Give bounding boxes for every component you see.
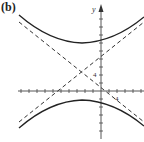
y-axis xyxy=(99,4,104,139)
y-axis-arrow-icon xyxy=(99,4,104,12)
graph-canvas: y 4 4 xyxy=(0,0,144,142)
x-axis xyxy=(18,89,144,93)
hyperbola-lower-branch xyxy=(19,100,144,128)
asymptotes xyxy=(19,22,144,122)
y-axis-label: y xyxy=(91,5,96,14)
y-tick-label: 4 xyxy=(93,71,97,79)
hyperbola-upper-branch xyxy=(19,15,144,43)
figure-panel: (b) xyxy=(0,0,144,142)
